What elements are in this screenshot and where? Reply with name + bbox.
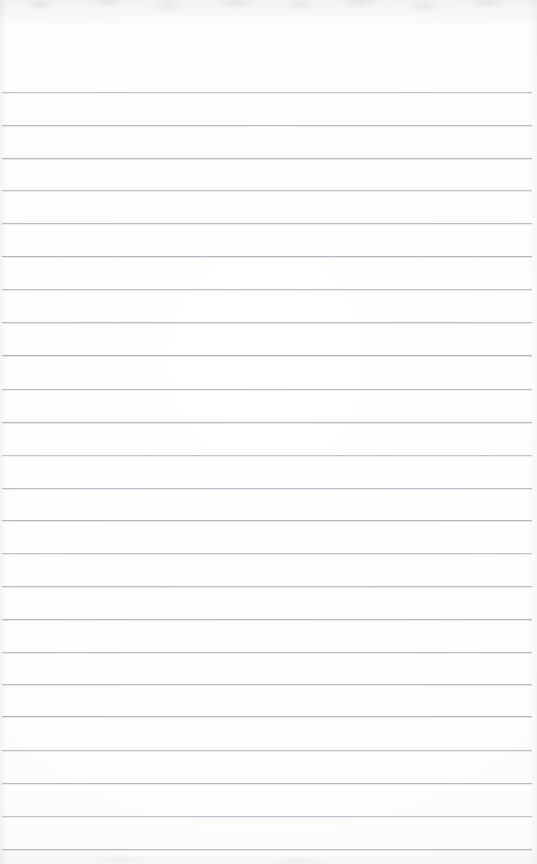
page-text-content <box>0 0 537 864</box>
scanned-page <box>0 0 537 864</box>
